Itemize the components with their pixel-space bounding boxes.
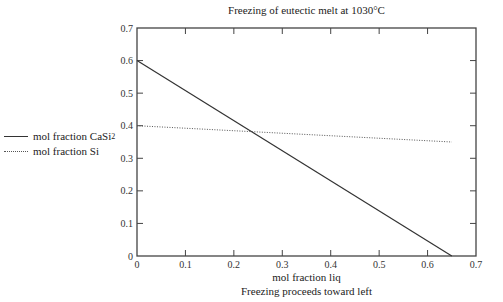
legend: mol fraction CaSi2 mol fraction Si (4, 129, 115, 159)
y-tick-label: 0 (128, 251, 133, 262)
x-tick-label: 0.3 (276, 259, 289, 270)
x-tick-label: 0.5 (373, 259, 386, 270)
solid-line-swatch-icon (4, 136, 28, 137)
legend-item-si: mol fraction Si (4, 144, 115, 159)
y-tick-label: 0.4 (121, 120, 134, 131)
x-tick-label: 0.4 (324, 259, 337, 270)
legend-item-casi2: mol fraction CaSi2 (4, 129, 115, 144)
y-tick-label: 0.1 (121, 218, 134, 229)
y-tick-label: 0.5 (121, 88, 134, 99)
legend-label-casi2-subscript: 2 (111, 129, 115, 144)
series-line-si (137, 126, 452, 142)
x-tick-label: 0.1 (179, 259, 192, 270)
dotted-line-swatch-icon (4, 151, 28, 152)
series-line-casi2 (137, 61, 452, 256)
x-tick-label: 0.7 (470, 259, 483, 270)
x-tick-label: 0 (135, 259, 140, 270)
legend-label-casi2: mol fraction CaSi (33, 129, 111, 144)
y-tick-label: 0.3 (121, 153, 134, 164)
legend-label-si: mol fraction Si (33, 144, 99, 159)
y-tick-label: 0.2 (121, 185, 134, 196)
plot-frame (137, 28, 476, 256)
x-axis-label-block: mol fraction liq Freezing proceeds towar… (137, 270, 476, 298)
x-tick-label: 0.6 (421, 259, 434, 270)
y-tick-label: 0.6 (121, 55, 134, 66)
y-tick-label: 0.7 (121, 23, 134, 34)
x-axis-sublabel: Freezing proceeds toward left (137, 284, 476, 298)
x-tick-label: 0.2 (228, 259, 241, 270)
x-axis-label: mol fraction liq (137, 270, 476, 284)
